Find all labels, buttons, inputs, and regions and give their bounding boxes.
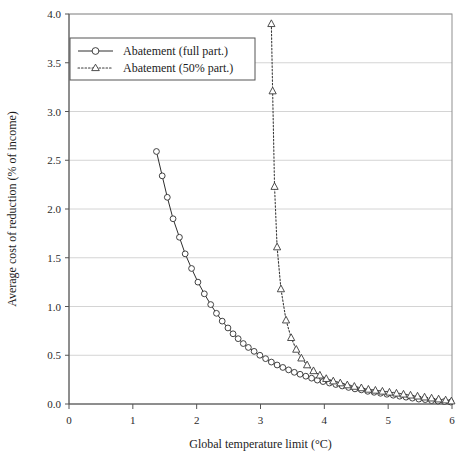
data-point-marker xyxy=(195,279,201,285)
data-point-marker xyxy=(170,216,176,222)
data-point-marker xyxy=(245,345,251,351)
y-tick-label: 1.5 xyxy=(47,252,61,264)
y-axis-title: Average cost of reduction (% of income) xyxy=(5,111,19,307)
data-point-marker xyxy=(297,371,303,377)
x-tick-label: 0 xyxy=(66,414,72,426)
y-tick-label: 3.5 xyxy=(47,57,61,69)
data-point-marker xyxy=(291,369,297,375)
x-tick-label: 1 xyxy=(130,414,136,426)
y-tick-label: 0.0 xyxy=(47,398,61,410)
data-point-marker xyxy=(154,149,160,155)
data-point-marker xyxy=(159,173,165,179)
x-tick-label: 4 xyxy=(322,414,328,426)
chart-figure: 0.00.51.01.52.02.53.03.54.0 0123456 Abat… xyxy=(0,0,463,472)
data-point-marker xyxy=(182,251,188,257)
data-point-marker xyxy=(235,336,241,342)
data-point-marker xyxy=(164,194,170,200)
y-tick-label: 1.0 xyxy=(47,301,61,313)
y-tick-label: 4.0 xyxy=(47,8,61,20)
data-point-marker xyxy=(240,341,246,347)
data-point-marker xyxy=(309,375,315,381)
legend-marker-circle-icon xyxy=(92,48,99,55)
legend-label-half: Abatement (50% part.) xyxy=(123,61,233,75)
data-point-marker xyxy=(208,302,214,308)
data-point-marker xyxy=(201,291,207,297)
data-point-marker xyxy=(286,367,292,373)
y-tick-label: 0.5 xyxy=(47,349,61,361)
data-point-marker xyxy=(230,331,236,337)
x-tick-label: 3 xyxy=(258,414,264,426)
x-tick-label: 2 xyxy=(194,414,200,426)
data-point-marker xyxy=(263,356,269,362)
legend-label-full: Abatement (full part.) xyxy=(123,44,228,58)
y-tick-label: 2.0 xyxy=(47,203,61,215)
data-point-marker xyxy=(214,310,220,316)
data-point-marker xyxy=(225,325,231,331)
data-point-marker xyxy=(268,359,274,365)
y-tick-label: 3.0 xyxy=(47,106,61,118)
data-point-marker xyxy=(274,362,280,368)
y-tick-label: 2.5 xyxy=(47,154,61,166)
data-point-marker xyxy=(303,373,309,379)
x-tick-label: 5 xyxy=(385,414,391,426)
data-point-marker xyxy=(177,234,183,240)
abatement-cost-chart: 0.00.51.01.52.02.53.03.54.0 0123456 Abat… xyxy=(0,0,463,472)
x-axis-title: Global temperature limit (°C) xyxy=(189,437,331,451)
data-point-marker xyxy=(257,352,263,358)
data-point-marker xyxy=(251,348,257,354)
data-point-marker xyxy=(280,365,286,371)
data-point-marker xyxy=(219,318,225,324)
legend: Abatement (full part.) Abatement (50% pa… xyxy=(70,38,255,80)
data-point-marker xyxy=(189,266,195,272)
x-tick-label: 6 xyxy=(449,414,455,426)
